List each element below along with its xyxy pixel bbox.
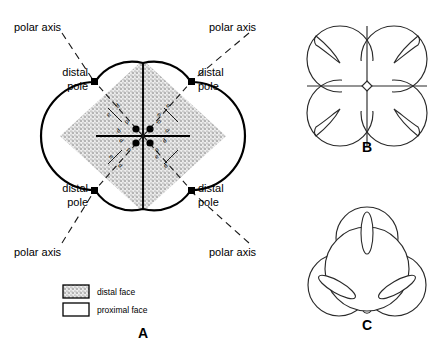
distal-pole-label-lower-right-line2: pole xyxy=(198,196,219,208)
distal-pole-label-upper-right-line2: pole xyxy=(198,80,219,92)
panel-letter-c: C xyxy=(362,317,372,333)
panel-c-aperture-top xyxy=(361,212,373,254)
polar-axis-label-bottom-right: polar axis xyxy=(209,246,257,258)
distal-pole-marker-lower-left xyxy=(91,187,98,194)
legend-swatch-proximal-face xyxy=(63,303,89,316)
polar-axis-label-bottom-left: polar axis xyxy=(14,246,62,258)
panel-letter-b: B xyxy=(362,139,372,155)
legend-label-distal-face: distal face xyxy=(97,287,136,297)
figure-container: p d d e p d d e p d d e p d d e polar ax… xyxy=(0,0,438,347)
distal-pole-label-upper-right-line1: distal xyxy=(198,66,224,78)
legend-label-proximal-face: proximal face xyxy=(97,305,148,315)
panel-letter-a: A xyxy=(138,325,148,341)
proximal-pole-marker-1 xyxy=(132,125,139,132)
proximal-pole-marker-3 xyxy=(132,139,139,146)
distal-pole-label-lower-left-line1: distal xyxy=(62,182,88,194)
distal-pole-marker-upper-left xyxy=(91,78,98,85)
distal-pole-marker-lower-right xyxy=(188,187,195,194)
polar-axis-label-top-left: polar axis xyxy=(14,21,62,33)
distal-pole-marker-upper-right xyxy=(188,78,195,85)
distal-pole-label-upper-left-line1: distal xyxy=(62,66,88,78)
distal-pole-label-upper-left-line2: pole xyxy=(67,80,88,92)
distal-pole-label-lower-right-line1: distal xyxy=(198,182,224,194)
figure-svg: p d d e p d d e p d d e p d d e polar ax… xyxy=(0,0,438,347)
proximal-pole-marker-4 xyxy=(146,139,153,146)
proximal-pole-marker-2 xyxy=(146,125,153,132)
distal-pole-label-lower-left-line2: pole xyxy=(67,196,88,208)
polar-axis-label-top-right: polar axis xyxy=(209,21,257,33)
legend-swatch-distal-face xyxy=(63,285,89,298)
